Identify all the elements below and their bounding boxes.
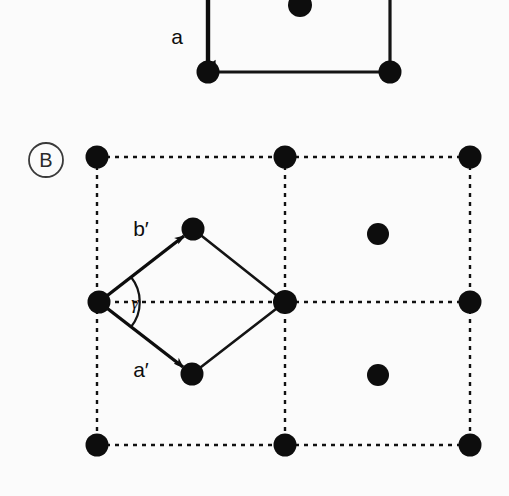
lattice-point-col3-row2 <box>459 291 482 314</box>
panel-a-lattice-point-corner-bottom-right <box>379 61 402 84</box>
lattice-point-col2-row2 <box>273 290 297 314</box>
lattice-figure: a B <box>0 0 509 496</box>
lattice-point-col1-row3 <box>86 434 109 457</box>
lattice-point-col2-row3 <box>274 434 297 457</box>
figure-canvas: a B <box>0 0 509 496</box>
panel-b-vector-b-prime-label: b′ <box>133 217 149 240</box>
panel-b-letter-text: B <box>39 149 52 171</box>
lattice-point-centre-upper-left <box>182 218 205 241</box>
lattice-point-col2-row1 <box>274 146 297 169</box>
lattice-point-centre-upper-right <box>367 223 389 245</box>
figure-background <box>0 0 509 496</box>
panel-a-vector-a-label: a <box>171 25 183 48</box>
lattice-point-col3-row1 <box>459 146 482 169</box>
lattice-point-centre-lower-left <box>181 363 204 386</box>
lattice-point-col1-row2 <box>88 291 111 314</box>
lattice-point-col1-row1 <box>86 146 109 169</box>
lattice-point-col3-row3 <box>459 434 482 457</box>
panel-b-vector-a-prime-label: a′ <box>133 358 149 381</box>
panel-a-lattice-point-corner-bottom-left <box>197 61 220 84</box>
lattice-point-centre-lower-right <box>367 364 389 386</box>
panel-b-gamma-label: γ <box>131 292 139 313</box>
